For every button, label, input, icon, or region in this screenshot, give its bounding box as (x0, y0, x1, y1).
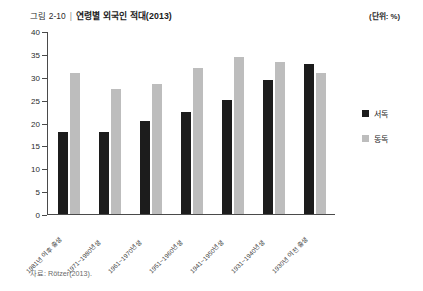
legend-item[interactable]: 서독 (362, 108, 418, 119)
bar (316, 73, 326, 214)
y-axis-tick (42, 32, 47, 33)
unit-note: (단위: %) (369, 10, 400, 21)
y-axis-tick (42, 169, 47, 170)
legend-swatch-icon (362, 135, 369, 142)
figure-header: 그림 2-10 | 연령별 외국인 적대(2013) (단위: %) (30, 9, 400, 25)
y-axis-tick (42, 192, 47, 193)
bar-group (294, 32, 335, 214)
bar (222, 100, 232, 214)
legend-item-label: 동독 (374, 133, 388, 144)
bar (140, 121, 150, 214)
y-axis-tick (42, 215, 47, 216)
y-axis-tick-label: 30 (31, 73, 40, 82)
bar-group (89, 32, 130, 214)
bar (152, 84, 162, 214)
legend-swatch-icon (362, 110, 369, 117)
y-axis-tick (42, 55, 47, 56)
bar-group (130, 32, 171, 214)
bar-group (48, 32, 89, 214)
x-axis-line (47, 214, 335, 215)
page-title: 연령별 외국인 적대(2013) (76, 9, 172, 22)
bar (181, 112, 191, 214)
y-axis-tick (42, 101, 47, 102)
y-axis-tick-label: 25 (31, 96, 40, 105)
bar-group (171, 32, 212, 214)
figure-number: 그림 2-10 (30, 9, 66, 21)
bar (193, 68, 203, 214)
y-axis-tick-label: 40 (31, 28, 40, 37)
bar (111, 89, 121, 214)
bar (70, 73, 80, 214)
bar (275, 62, 285, 214)
y-axis-tick-label: 35 (31, 50, 40, 59)
x-axis-labels: 1981년 이후 출생1971~1980년생1961~1970년생1951~19… (48, 216, 335, 268)
plot-area: 0510152025303540 (47, 32, 335, 215)
bar-group (253, 32, 294, 214)
y-axis-tick (42, 124, 47, 125)
y-axis-tick (42, 146, 47, 147)
bar-group (212, 32, 253, 214)
y-axis-tick (42, 78, 47, 79)
bar (263, 80, 273, 214)
bar (58, 132, 68, 214)
y-axis-tick-label: 0 (36, 211, 40, 220)
figure-title-group: 그림 2-10 | 연령별 외국인 적대(2013) (30, 9, 172, 22)
legend-item[interactable]: 동독 (362, 133, 418, 144)
y-axis-tick-label: 20 (31, 119, 40, 128)
bar-groups (48, 32, 335, 214)
chart-legend: 서독동독 (362, 108, 418, 158)
figure-container: 그림 2-10 | 연령별 외국인 적대(2013) (단위: %) 05101… (0, 0, 423, 291)
title-separator: | (70, 11, 72, 21)
bar (234, 57, 244, 214)
y-axis-tick-label: 15 (31, 142, 40, 151)
y-axis-tick-label: 5 (36, 188, 40, 197)
source-note: 자료: Rötzer(2013). (30, 268, 92, 278)
bar (99, 132, 109, 214)
x-axis-label-cell: 1930년 이전 출생 (294, 216, 335, 268)
y-axis-tick-label: 10 (31, 165, 40, 174)
legend-item-label: 서독 (374, 108, 388, 119)
bar (304, 64, 314, 214)
